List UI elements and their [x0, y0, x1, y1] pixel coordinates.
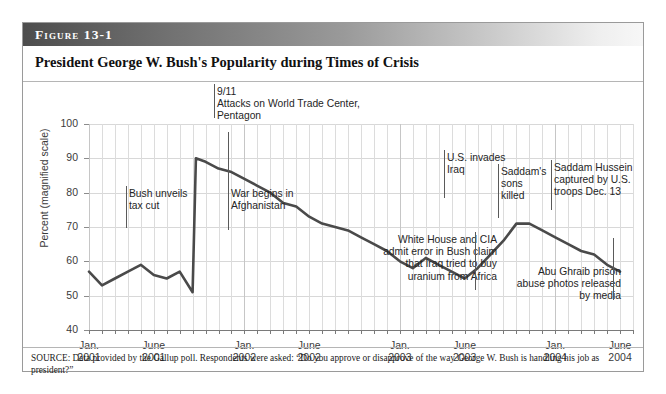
annotation-iraq-invasion: U.S. invades Iraq — [447, 152, 505, 176]
annotation-marker-saddam-captured — [551, 160, 552, 210]
figure-header-bar: Figure 13-1 — [23, 23, 643, 46]
annotation-marker-tax-cut — [126, 186, 127, 228]
source-note: SOURCE: Data provided by the Gallup poll… — [31, 352, 637, 376]
annotation-marker-iraq-invasion — [444, 150, 445, 198]
annotation-saddam-sons: Saddam's sons killed — [501, 166, 546, 203]
annotation-saddam-captured: Saddam Hussein captured by U.S. troops D… — [554, 162, 632, 199]
annotation-abu-ghraib: Abu Ghraib prison abuse photos released … — [471, 266, 621, 303]
figure-container: Figure 13-1 President George W. Bush's P… — [22, 22, 644, 372]
figure-number-label: Figure 13-1 — [35, 27, 113, 43]
source-divider — [23, 347, 643, 348]
figure-title: President George W. Bush's Popularity du… — [35, 54, 419, 71]
annotation-marker-nine-eleven — [214, 84, 215, 118]
annotation-afghanistan: War begins in Afghanistan — [231, 188, 294, 212]
chart-plot-area: Percent (magnified scale) 40506070809010… — [23, 82, 643, 347]
annotation-marker-saddam-sons — [498, 164, 499, 218]
annotation-tax-cut: Bush unveils tax cut — [129, 188, 187, 212]
annotation-marker-afghanistan — [228, 132, 229, 230]
annotation-marker-abu-ghraib — [613, 238, 614, 300]
annotation-nine-eleven: 9/11 Attacks on World Trade Center, Pent… — [217, 86, 360, 123]
